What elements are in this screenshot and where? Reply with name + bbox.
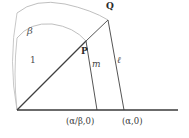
- arc-outer-leg-left: [13, 13, 18, 110]
- segment-P-to-Q: [86, 20, 108, 41]
- arc-outer-radius-beta: [17, 2, 108, 20]
- axis-coordinate-alpha-over-beta: (α/β,0): [66, 117, 94, 126]
- point-label-p: P: [81, 47, 88, 56]
- geometry-figure: β 1 P Q m ℓ (α/β,0) (α,0): [0, 0, 189, 138]
- arc-group: [13, 2, 109, 110]
- segment-group: [17, 20, 124, 110]
- axis-coordinate-alpha: (α,0): [122, 117, 142, 126]
- arc-label-beta: β: [27, 26, 33, 36]
- segment-Q-to-foot-ell: [108, 20, 124, 110]
- segment-label-m: m: [92, 60, 101, 69]
- geometry-canvas: [0, 0, 189, 138]
- segment-label-ell: ℓ: [117, 56, 121, 65]
- point-label-q: Q: [106, 2, 114, 11]
- arc-label-one: 1: [30, 56, 36, 65]
- segment-origin-to-P: [17, 41, 86, 110]
